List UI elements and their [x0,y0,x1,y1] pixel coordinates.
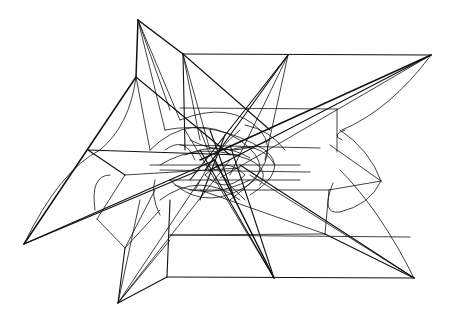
abstract-line-drawing [0,0,454,322]
outer-frame-lines [24,20,431,303]
line-art-canvas [0,0,454,322]
central-tangle [150,112,320,200]
